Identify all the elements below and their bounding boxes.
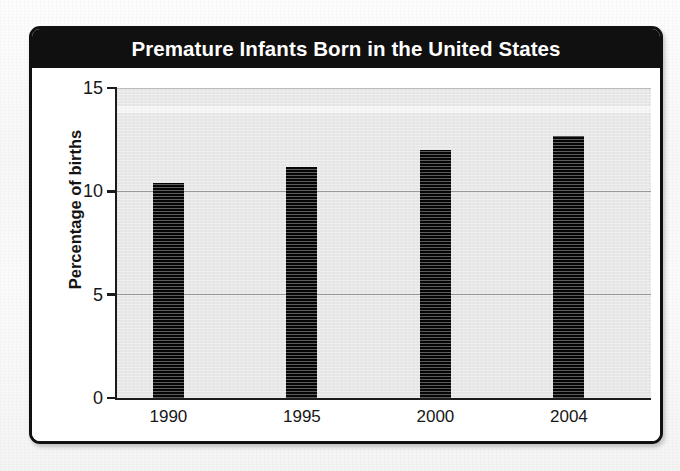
bar [286,167,317,398]
chart-title-bar: Premature Infants Born in the United Sta… [32,29,660,68]
chart-title: Premature Infants Born in the United Sta… [131,37,560,61]
bar [153,183,184,398]
y-tick-mark [107,87,117,90]
y-axis-title: Percentage of births [66,105,85,315]
x-tick-label: 2000 [416,407,454,427]
plot-area: 0510151990199520002004 [115,88,651,400]
y-tick-mark [107,293,117,296]
scan-band [117,106,651,113]
chart-card: Premature Infants Born in the United Sta… [29,26,663,444]
x-axis-title: Year [115,439,651,444]
y-tick-mark [107,190,117,193]
y-tick-label: 5 [93,284,103,305]
chart-area: Percentage of births 0510151990199520002… [32,68,660,441]
y-tick-label: 0 [93,388,103,409]
x-tick-label: 1990 [149,407,187,427]
y-tick-mark [107,397,117,400]
y-gridline [117,88,651,89]
x-tick-label: 2004 [550,407,588,427]
bar [420,150,451,398]
y-tick-label: 10 [83,181,103,202]
y-tick-label: 15 [83,78,103,99]
x-tick-label: 1995 [283,407,321,427]
bar [553,136,584,398]
